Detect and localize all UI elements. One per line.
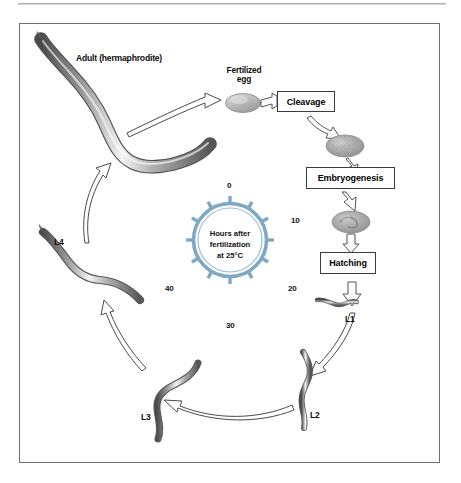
process-box-cleavage: Cleavage bbox=[277, 91, 335, 112]
cleavage-stage-embryo bbox=[326, 135, 364, 157]
connector-egg-to-cleavage bbox=[261, 93, 277, 109]
fertilized-egg bbox=[226, 94, 261, 113]
arrow-l3-to-l4 bbox=[101, 300, 146, 371]
label-l2: L2 bbox=[310, 411, 320, 421]
clock-caption-line1: Hours after bbox=[185, 228, 275, 239]
clock-tick-label-0: 0 bbox=[227, 182, 231, 191]
late-stage-embryo bbox=[332, 211, 370, 233]
arrow-embryogenesis-to-late-embryo bbox=[342, 192, 356, 211]
clock-tick-label-10: 10 bbox=[291, 217, 300, 226]
adult-hermaphrodite-worm bbox=[37, 31, 210, 167]
arrow-embryo-to-hatching bbox=[343, 234, 359, 253]
arrow-l4-to-adult bbox=[84, 163, 111, 243]
clock-tick-label-30: 30 bbox=[226, 322, 235, 331]
clock-tick-label-20: 20 bbox=[288, 285, 297, 294]
clock-caption-line2: fertilization bbox=[185, 239, 275, 250]
arrow-cleavage-to-embryo bbox=[307, 116, 341, 139]
label-l1: L1 bbox=[345, 315, 355, 325]
label-fertilized-egg: Fertilized egg bbox=[215, 66, 273, 85]
l4-larva bbox=[39, 224, 140, 300]
clock-caption-line3: at 25°C bbox=[185, 250, 275, 261]
l2-larva bbox=[301, 352, 309, 428]
label-fertilized-egg-line2: egg bbox=[215, 75, 273, 84]
arrow-adult-to-egg bbox=[127, 93, 221, 137]
clock-center-caption: Hours after fertilization at 25°C bbox=[185, 228, 275, 261]
label-l3: L3 bbox=[141, 413, 151, 423]
arrow-l2-to-l3 bbox=[164, 400, 294, 420]
label-l4: L4 bbox=[54, 238, 64, 248]
process-box-embryogenesis: Embryogenesis bbox=[306, 167, 395, 189]
label-adult-hermaphrodite: Adult (hermaphrodite) bbox=[76, 54, 162, 64]
figure-page: Adult (hermaphrodite) Fertilized egg Cle… bbox=[0, 0, 461, 483]
process-box-hatching: Hatching bbox=[320, 252, 376, 274]
clock-tick-label-40: 40 bbox=[165, 285, 174, 294]
